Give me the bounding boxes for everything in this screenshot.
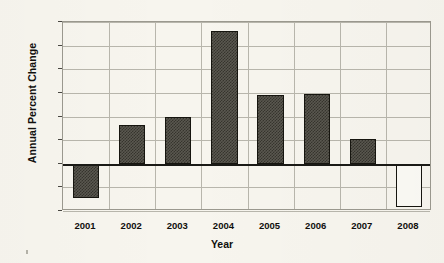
gridline-x-6 bbox=[340, 22, 341, 209]
gridline-y-4 bbox=[63, 117, 430, 118]
y-tick-mark-12 bbox=[58, 21, 62, 22]
bar-2004 bbox=[211, 31, 237, 163]
x-tick-label-2002: 2002 bbox=[108, 221, 154, 231]
x-tick-label-2003: 2003 bbox=[154, 221, 200, 231]
gridline-y-12 bbox=[63, 22, 430, 23]
bar-2006 bbox=[304, 94, 330, 164]
plot-area bbox=[62, 21, 431, 210]
bar-2007 bbox=[350, 139, 376, 164]
bar-2005 bbox=[257, 95, 283, 164]
y-tick-mark-2 bbox=[58, 139, 62, 140]
x-tick-label-2008: 2008 bbox=[385, 221, 431, 231]
y-tick-mark-10 bbox=[58, 45, 62, 46]
y-tick-mark-6 bbox=[58, 92, 62, 93]
bar-2003 bbox=[165, 117, 191, 164]
gridline-x-5 bbox=[294, 22, 295, 209]
gridline-y--2 bbox=[63, 187, 430, 188]
y-tick-mark-0 bbox=[58, 163, 62, 164]
gridline-y-10 bbox=[63, 46, 430, 47]
gridline-x-2 bbox=[155, 22, 156, 209]
bar-2008 bbox=[396, 164, 422, 208]
x-axis-title: Year bbox=[0, 238, 444, 250]
scan-speck bbox=[26, 250, 28, 254]
x-tick-label-2005: 2005 bbox=[247, 221, 293, 231]
y-axis-title: Annual Percent Change bbox=[26, 8, 38, 198]
bar-2002 bbox=[119, 125, 145, 164]
bar-2001 bbox=[73, 164, 99, 198]
chart-figure: Annual Percent Change -4-2024681012 2001… bbox=[0, 0, 444, 263]
gridline-x-4 bbox=[248, 22, 249, 209]
gridline-x-3 bbox=[201, 22, 202, 209]
zero-baseline bbox=[63, 164, 430, 166]
y-tick-mark-4 bbox=[58, 116, 62, 117]
x-tick-label-2004: 2004 bbox=[200, 221, 246, 231]
gridline-y-6 bbox=[63, 93, 430, 94]
gridline-x-1 bbox=[109, 22, 110, 209]
gridline-y--4 bbox=[63, 211, 430, 212]
y-tick-mark-8 bbox=[58, 68, 62, 69]
x-tick-label-2001: 2001 bbox=[62, 221, 108, 231]
gridline-y-8 bbox=[63, 69, 430, 70]
x-tick-label-2006: 2006 bbox=[293, 221, 339, 231]
x-tick-label-2007: 2007 bbox=[339, 221, 385, 231]
y-tick-mark--2 bbox=[58, 186, 62, 187]
gridline-x-7 bbox=[386, 22, 387, 209]
y-tick-mark--4 bbox=[58, 210, 62, 211]
